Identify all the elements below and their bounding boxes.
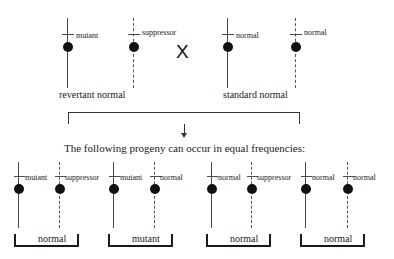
- chromosome-line: [305, 162, 306, 228]
- allele-label: suppressor: [65, 174, 99, 182]
- parent-2-label: standard normal: [223, 90, 288, 100]
- allele-label: mutant: [76, 32, 98, 40]
- gene-locus-tick: [207, 176, 218, 177]
- gene-locus-tick: [222, 34, 234, 35]
- centromere-dot: [343, 184, 353, 194]
- progeny-caption: The following progeny can occur in equal…: [64, 143, 305, 154]
- cross-bracket: [68, 112, 300, 124]
- progeny-arrow-head: [181, 133, 187, 138]
- gene-locus-tick: [109, 176, 120, 177]
- allele-label: normal: [304, 29, 327, 37]
- centromere-dot: [63, 42, 73, 52]
- centromere-dot: [301, 184, 311, 194]
- allele-label: suppressor: [142, 29, 176, 37]
- progeny-3-phenotype: normal: [229, 234, 259, 244]
- centromere-dot: [129, 42, 139, 52]
- centromere-dot: [150, 184, 160, 194]
- gene-locus-tick: [290, 34, 302, 35]
- allele-label: mutant: [120, 174, 142, 182]
- progeny-4-phenotype: normal: [323, 234, 353, 244]
- allele-label: normal: [218, 174, 241, 182]
- allele-label: normal: [312, 174, 335, 182]
- chromosome-line: [251, 162, 252, 228]
- gene-locus-tick: [14, 176, 25, 177]
- genetics-cross-diagram: mutant suppressor revertant normal X nor…: [0, 0, 394, 259]
- chromosome-line: [133, 18, 134, 88]
- parent-1-label: revertant normal: [59, 90, 125, 100]
- chromosome-line: [67, 18, 68, 88]
- gene-locus-tick: [301, 176, 312, 177]
- chromosome-line: [154, 162, 155, 228]
- chromosome-line: [295, 18, 296, 88]
- allele-label: normal: [353, 174, 376, 182]
- centromere-dot: [291, 42, 301, 52]
- allele-label: mutant: [25, 174, 47, 182]
- allele-label: normal: [236, 32, 259, 40]
- chromosome-line: [113, 162, 114, 228]
- chromosome-line: [347, 162, 348, 228]
- centromere-dot: [55, 184, 65, 194]
- allele-label: normal: [160, 174, 183, 182]
- progeny-1-phenotype: normal: [37, 234, 67, 244]
- centromere-dot: [223, 42, 233, 52]
- chromosome-line: [59, 162, 60, 228]
- gene-locus-tick: [62, 34, 74, 35]
- centromere-dot: [109, 184, 119, 194]
- centromere-dot: [207, 184, 217, 194]
- gene-locus-tick: [128, 34, 140, 35]
- progeny-2-phenotype: mutant: [131, 234, 161, 244]
- allele-label: suppressor: [257, 174, 291, 182]
- chromosome-line: [227, 18, 228, 88]
- chromosome-line: [18, 162, 19, 228]
- cross-symbol: X: [176, 42, 189, 61]
- chromosome-line: [211, 162, 212, 228]
- centromere-dot: [14, 184, 24, 194]
- centromere-dot: [247, 184, 257, 194]
